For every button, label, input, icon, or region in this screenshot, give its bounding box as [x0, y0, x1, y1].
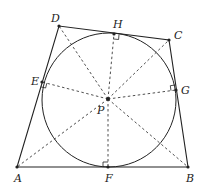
point-g	[174, 88, 177, 91]
point-a	[15, 165, 18, 168]
point-e	[40, 80, 43, 83]
point-b	[186, 165, 189, 168]
segment-pe	[42, 82, 108, 99]
point-f	[106, 165, 109, 168]
point-p	[106, 97, 110, 101]
label-d: D	[50, 12, 60, 25]
geometry-diagram: A B C D E F G H P	[0, 0, 208, 192]
label-p: P	[96, 104, 105, 117]
dashed-segments	[17, 26, 188, 167]
label-a: A	[13, 172, 22, 185]
segment-pb	[108, 99, 188, 167]
label-e: E	[30, 75, 39, 88]
label-g: G	[181, 84, 190, 97]
segment-pc	[108, 40, 169, 99]
segment-ph	[108, 34, 114, 99]
segment-pa	[17, 99, 108, 167]
segment-pg	[108, 90, 176, 99]
label-b: B	[185, 172, 194, 185]
segment-pd	[59, 26, 108, 99]
point-h	[112, 32, 115, 35]
label-c: C	[174, 29, 183, 42]
quadrilateral-abcd	[17, 26, 188, 167]
label-h: H	[112, 18, 123, 31]
label-f: F	[104, 172, 113, 185]
point-c	[167, 38, 170, 41]
vertex-dots	[15, 24, 189, 168]
